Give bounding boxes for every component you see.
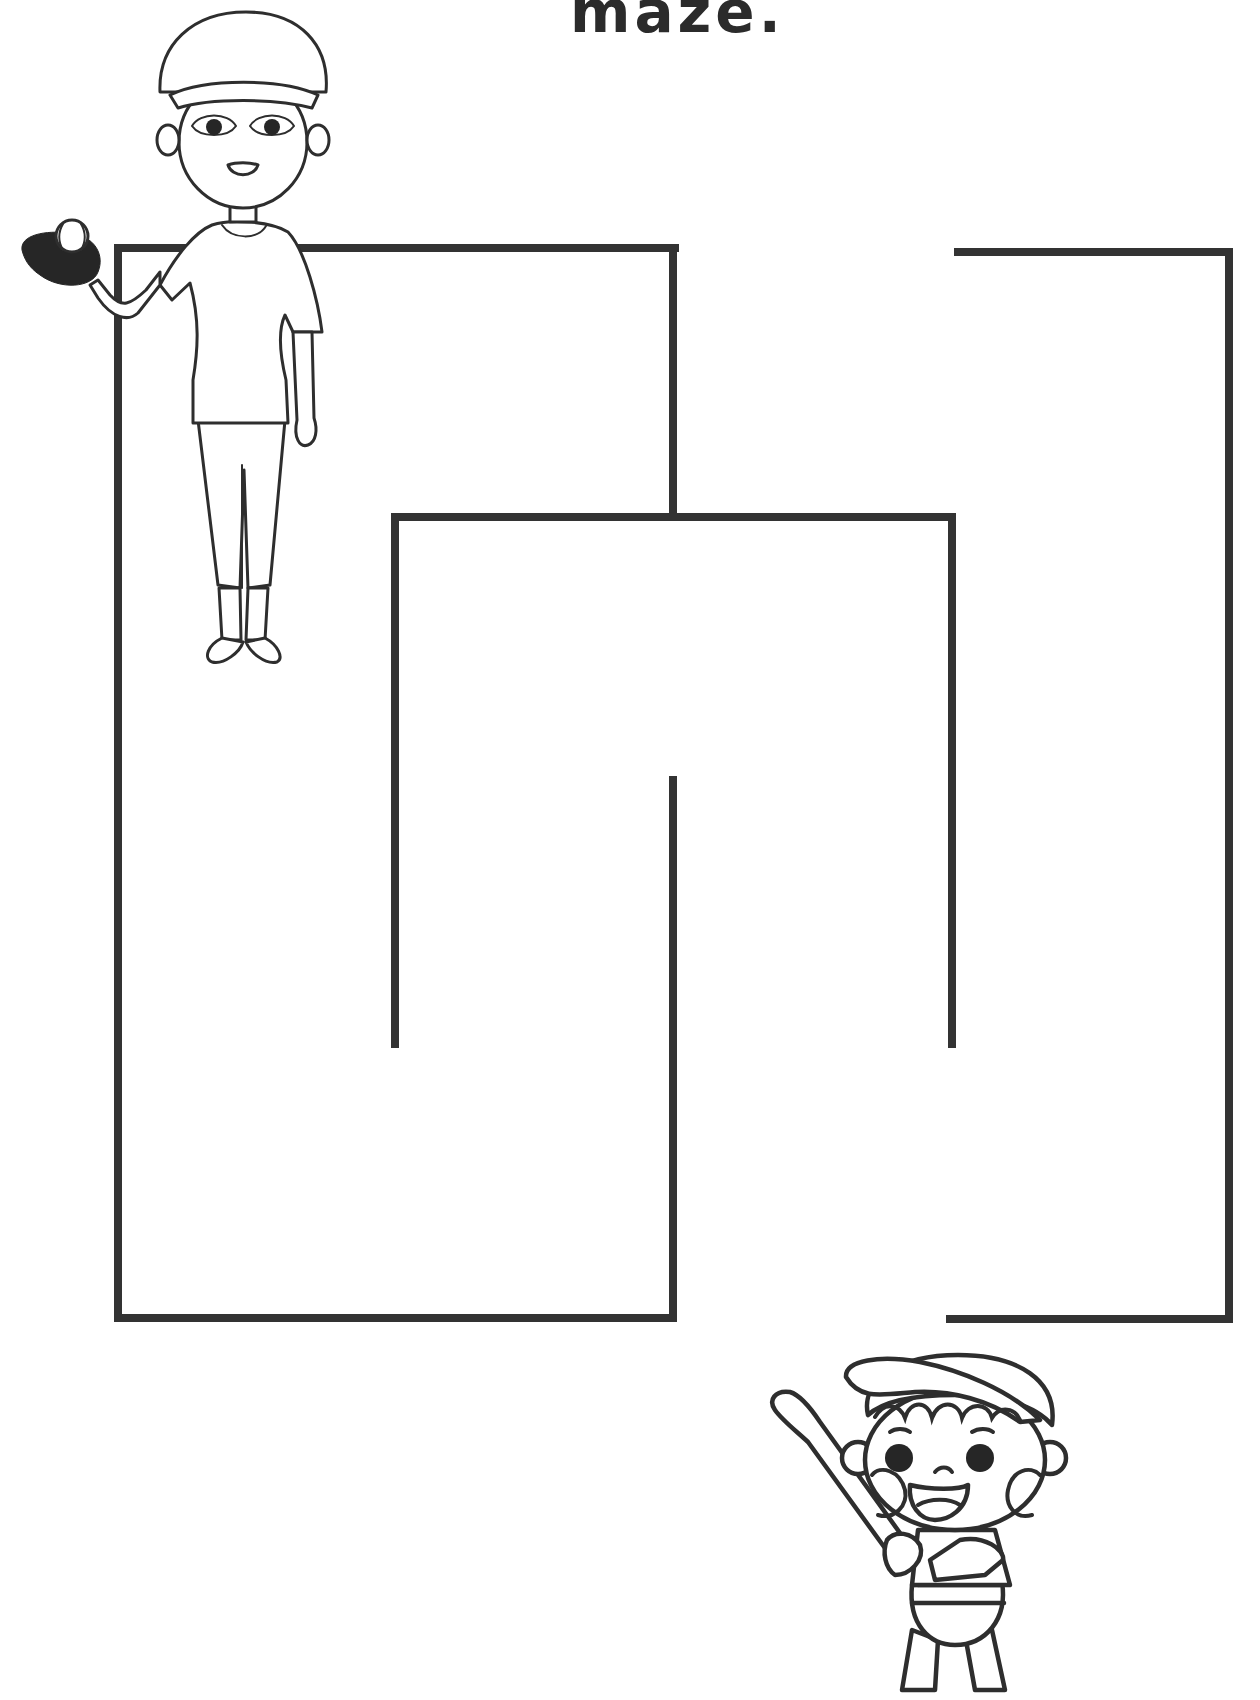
boy-eye-right bbox=[966, 1444, 994, 1472]
woman-cap bbox=[160, 12, 326, 92]
maze-canvas bbox=[0, 0, 1260, 1700]
woman-pupil-left bbox=[206, 119, 222, 135]
woman-left-arm bbox=[90, 272, 160, 318]
boy-eye-left bbox=[885, 1444, 913, 1472]
woman-character bbox=[22, 12, 329, 662]
woman-shoes bbox=[207, 638, 279, 662]
woman-right-arm bbox=[293, 332, 316, 446]
woman-ear-right bbox=[307, 125, 329, 155]
boy-character bbox=[772, 1355, 1066, 1690]
woman-pupil-right bbox=[264, 119, 280, 135]
woman-socks bbox=[219, 588, 268, 640]
woman-mouth bbox=[228, 163, 258, 175]
woman-ear-left bbox=[157, 125, 179, 155]
